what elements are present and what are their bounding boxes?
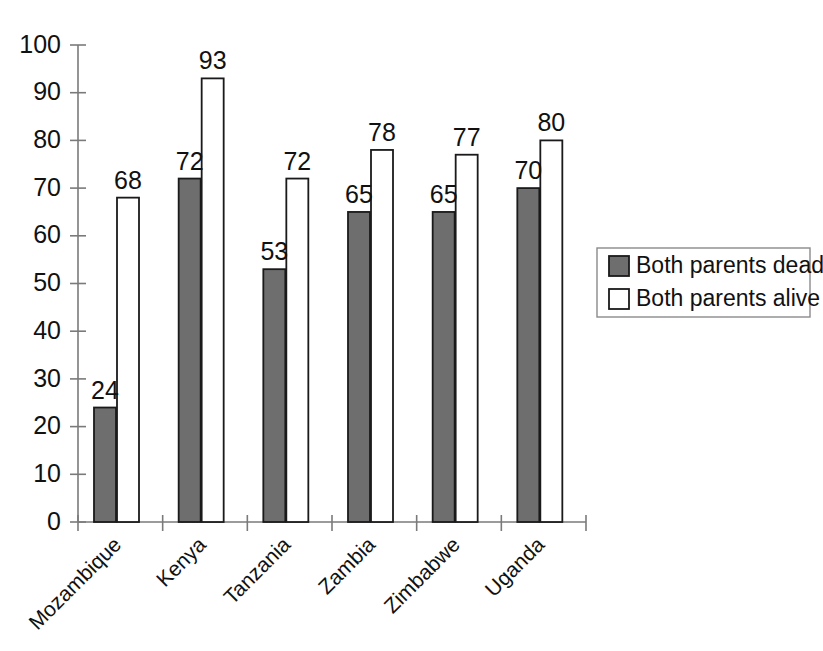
x-axis-category-label: Zimbabwe — [379, 533, 464, 618]
bar-both-parents-dead — [348, 212, 370, 522]
chart-canvas: 0102030405060708090100 24687293537265786… — [0, 0, 823, 651]
bar-both-parents-alive — [540, 140, 562, 522]
x-axis-category-label: Zambia — [314, 532, 380, 598]
legend-swatch — [609, 256, 629, 276]
bar-both-parents-dead — [94, 408, 116, 522]
y-tick-label: 50 — [33, 268, 61, 296]
bar-chart: 0102030405060708090100 24687293537265786… — [0, 0, 823, 651]
legend-label: Both parents alive — [636, 285, 820, 311]
bar-value-label: 93 — [199, 46, 227, 74]
y-tick-label: 60 — [33, 220, 61, 248]
bars-group — [94, 78, 562, 522]
bar-value-label: 24 — [91, 376, 119, 404]
legend-swatch — [609, 289, 629, 309]
bar-value-label: 72 — [176, 147, 204, 175]
legend: Both parents deadBoth parents alive — [597, 248, 823, 317]
bar-both-parents-alive — [286, 179, 308, 522]
bar-both-parents-alive — [456, 155, 478, 522]
bar-value-label: 65 — [430, 180, 458, 208]
bar-both-parents-dead — [517, 188, 539, 522]
bar-value-label: 77 — [453, 123, 481, 151]
y-tick-label: 40 — [33, 316, 61, 344]
x-axis-category-label: Tanzania — [219, 532, 295, 608]
y-tick-label: 100 — [19, 30, 61, 58]
bar-both-parents-alive — [202, 78, 224, 522]
bar-value-label: 68 — [114, 166, 142, 194]
bar-value-label: 72 — [283, 147, 311, 175]
bar-both-parents-alive — [371, 150, 393, 522]
x-axis-category-label: Kenya — [152, 532, 211, 591]
y-tick-label: 20 — [33, 411, 61, 439]
y-tick-label: 10 — [33, 459, 61, 487]
y-tick-label: 30 — [33, 364, 61, 392]
y-axis-ticks: 0102030405060708090100 — [19, 30, 86, 535]
legend-label: Both parents dead — [636, 252, 823, 278]
x-axis-ticks — [78, 515, 586, 531]
bar-both-parents-alive — [117, 198, 139, 522]
x-axis-category-label: Uganda — [480, 532, 549, 601]
bar-both-parents-dead — [433, 212, 455, 522]
bar-both-parents-dead — [263, 269, 285, 522]
value-labels-group: 246872935372657865777080 — [91, 46, 565, 403]
bar-value-label: 65 — [345, 180, 373, 208]
y-tick-label: 80 — [33, 125, 61, 153]
bar-value-label: 70 — [514, 156, 542, 184]
category-labels-group: MozambiqueKenyaTanzaniaZambiaZimbabweUga… — [24, 532, 549, 634]
bar-value-label: 80 — [537, 108, 565, 136]
bar-value-label: 53 — [260, 237, 288, 265]
x-axis-category-label: Mozambique — [24, 533, 125, 634]
y-tick-label: 0 — [47, 507, 61, 535]
y-tick-label: 90 — [33, 77, 61, 105]
y-tick-label: 70 — [33, 173, 61, 201]
bar-value-label: 78 — [368, 118, 396, 146]
bar-both-parents-dead — [179, 179, 201, 522]
